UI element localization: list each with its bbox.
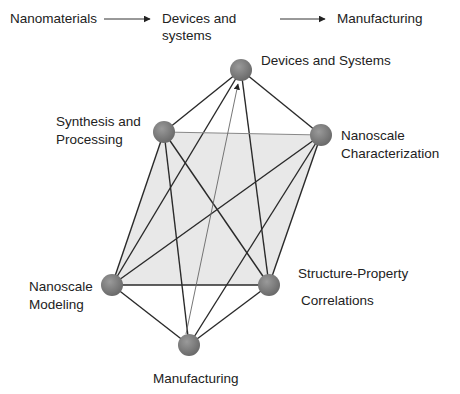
node-modeling [101, 274, 123, 296]
node-structure [258, 274, 280, 296]
flow-step-devices-line2: systems [162, 27, 212, 44]
node-manufacturing [178, 334, 200, 356]
node-characterization [310, 124, 332, 146]
node-synthesis [153, 121, 175, 143]
flow-step-manufacturing: Manufacturing [337, 10, 423, 27]
diagram-canvas [0, 0, 460, 394]
label-devices: Devices and Systems [261, 52, 391, 69]
label-synthesis-line2: Processing [56, 131, 123, 148]
label-manufacturing: Manufacturing [153, 370, 239, 387]
label-structure-line1: Structure-Property [298, 265, 408, 282]
flow-step-nanomaterials: Nanomaterials [10, 10, 97, 27]
label-characterization-line2: Characterization [341, 145, 439, 162]
label-structure-line2: Correlations [301, 292, 374, 309]
label-synthesis-line1: Synthesis and [56, 113, 141, 130]
node-devices [230, 59, 252, 81]
label-characterization-line1: Nanoscale [341, 127, 405, 144]
flow-step-devices-line1: Devices and [162, 10, 236, 27]
label-modeling-line1: Nanoscale [29, 278, 93, 295]
label-modeling-line2: Modeling [29, 296, 84, 313]
